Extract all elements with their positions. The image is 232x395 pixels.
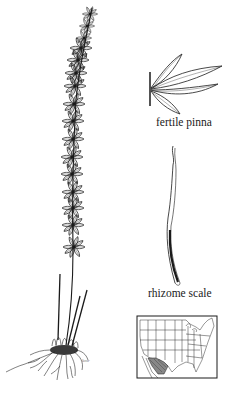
botanical-plate — [0, 0, 232, 395]
fern-plant — [6, 6, 98, 380]
rhizome-scale-detail — [167, 146, 180, 285]
roots — [6, 350, 88, 380]
fertile-pinna-label: fertile pinna — [156, 116, 212, 128]
range-map — [137, 316, 217, 378]
artist-signature: kmr — [82, 358, 90, 363]
rhizome-scale-label: rhizome scale — [148, 287, 212, 299]
fertile-pinna-detail — [150, 54, 222, 114]
